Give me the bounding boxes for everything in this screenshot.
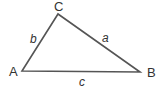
vertex-label-b: B — [147, 65, 156, 80]
triangle-diagram: A B C a b c — [0, 0, 164, 91]
vertex-label-c: C — [54, 0, 63, 14]
side-label-c: c — [79, 75, 85, 89]
vertex-label-a: A — [9, 64, 18, 79]
side-label-b: b — [30, 32, 37, 46]
triangle-shape — [22, 14, 140, 72]
side-label-a: a — [102, 31, 109, 45]
